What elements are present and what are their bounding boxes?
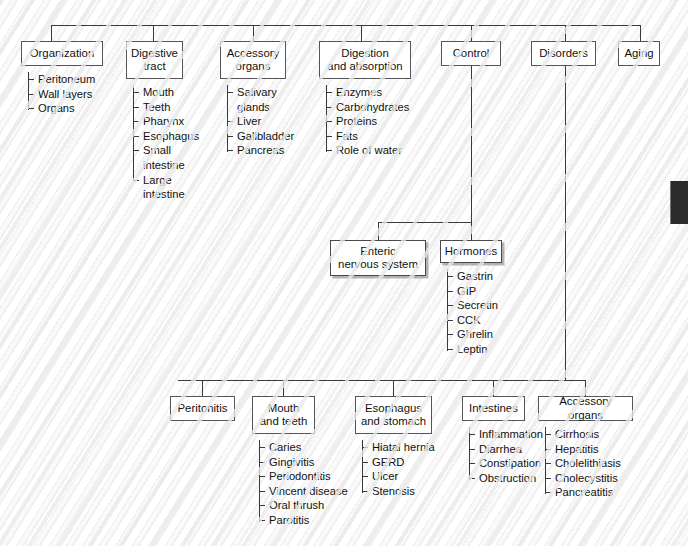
stem-aging: [640, 25, 641, 41]
leaf-item: Caries: [259, 440, 369, 455]
node-enteric-nervous-system-label: Enteric nervous system: [338, 245, 418, 271]
leaf-item: Leptin: [447, 342, 537, 357]
leaf-item: Mouth: [133, 85, 223, 100]
node-digestion-and-absorption[interactable]: Digestion and absorption: [319, 41, 411, 79]
leaf-item: Wall layers: [28, 87, 138, 102]
leaf-item: Secretin: [447, 298, 537, 313]
node-aging-label: Aging: [624, 47, 653, 60]
leaf-item: Salivary glands: [227, 85, 322, 114]
leaf-group-digestive-tract: Mouth Teeth Pharynx Esophagus Small inte…: [133, 85, 223, 202]
node-disorders-accessory-organs-label: Accessory organs: [541, 395, 630, 421]
leaf-item: Hiatal hernia: [362, 440, 457, 455]
diagram-canvas: Organization Digestive tract Accessory o…: [0, 0, 688, 546]
disorders-branch-bus: [178, 380, 585, 381]
leaf-item: Liver: [227, 114, 322, 129]
stem-disorders-accessory-organs: [585, 380, 586, 396]
leaf-group-disorders-accessory-organs: Cirrhosis Hepatitis Cholelithiasis Chole…: [545, 427, 655, 500]
stem-enteric-nervous-system: [378, 222, 379, 240]
disorders-down-line: [565, 66, 566, 380]
stem-digestive-tract: [153, 25, 154, 41]
node-disorders-label: Disorders: [539, 47, 588, 60]
stem-hormones: [471, 222, 472, 240]
node-organization-label: Organization: [30, 47, 95, 60]
stem-organization: [51, 25, 52, 41]
stem-digestion-and-absorption: [361, 25, 362, 41]
node-disorders-accessory-organs[interactable]: Accessory organs: [538, 396, 633, 421]
node-hormones[interactable]: Hormones: [440, 240, 502, 263]
node-digestion-and-absorption-label: Digestion and absorption: [327, 47, 402, 73]
leaf-item: GERD: [362, 455, 457, 470]
node-control-label: Control: [453, 47, 490, 60]
leaf-item: Fats: [326, 129, 436, 144]
leaf-group-digestion-and-absorption: Enzymes Carbohydrates Proteins Fats Role…: [326, 85, 436, 158]
right-edge-panel[interactable]: [670, 181, 688, 224]
node-esophagus-and-stomach-label: Esophagus and stomach: [361, 402, 426, 428]
control-down-line: [471, 66, 472, 222]
leaf-item: Ghrelin: [447, 327, 537, 342]
leaf-item: Small intestine: [133, 143, 223, 172]
node-digestive-tract-label: Digestive tract: [131, 47, 178, 73]
leaf-item: Pharynx: [133, 114, 223, 129]
leaf-item: Peritoneum: [28, 72, 138, 87]
node-peritonitis-label: Peritonitis: [177, 402, 227, 415]
control-branch-bus: [378, 222, 471, 223]
stem-disorders: [565, 25, 566, 41]
leaf-item: Gingivitis: [259, 455, 369, 470]
leaf-item: GIP: [447, 284, 537, 299]
leaf-group-accessory-organs: Salivary glands Liver Gallbladder Pancre…: [227, 85, 322, 158]
stem-peritonitis: [202, 380, 203, 396]
leaf-item: Gastrin: [447, 269, 537, 284]
node-mouth-and-teeth-label: Mouth and teeth: [260, 402, 308, 428]
leaf-item: Cholelithiasis: [545, 456, 655, 471]
leaf-item: Periodontitis: [259, 469, 369, 484]
leaf-item: Proteins: [326, 114, 436, 129]
node-mouth-and-teeth[interactable]: Mouth and teeth: [252, 396, 315, 434]
leaf-group-hormones: Gastrin GIP Secretin CCK Ghrelin Leptin: [447, 269, 537, 357]
node-disorders[interactable]: Disorders: [531, 41, 596, 66]
leaf-item: Hepatitis: [545, 442, 655, 457]
stem-esophagus-and-stomach: [393, 380, 394, 396]
node-accessory-organs[interactable]: Accessory organs: [220, 41, 286, 79]
node-enteric-nervous-system[interactable]: Enteric nervous system: [330, 240, 426, 276]
leaf-group-mouth-and-teeth: Caries Gingivitis Periodontitis Vincent …: [259, 440, 369, 528]
top-bus-line: [51, 25, 640, 26]
node-aging[interactable]: Aging: [618, 41, 660, 66]
node-control[interactable]: Control: [441, 41, 501, 66]
leaf-item: Carbohydrates: [326, 100, 436, 115]
leaf-item: Gallbladder: [227, 129, 322, 144]
leaf-item: Organs: [28, 101, 138, 116]
leaf-item: Enzymes: [326, 85, 436, 100]
leaf-item: Role of water: [326, 143, 436, 158]
leaf-item: Ulcer: [362, 469, 457, 484]
node-organization[interactable]: Organization: [21, 41, 103, 66]
leaf-item: Teeth: [133, 100, 223, 115]
leaf-item: Parotitis: [259, 513, 369, 528]
node-esophagus-and-stomach[interactable]: Esophagus and stomach: [355, 396, 432, 434]
leaf-item: Stenosis: [362, 484, 457, 499]
leaf-item: Large intestine: [133, 173, 223, 202]
leaf-group-esophagus-and-stomach: Hiatal hernia GERD Ulcer Stenosis: [362, 440, 457, 498]
leaf-item: Esophagus: [133, 129, 223, 144]
stem-control: [471, 25, 472, 41]
node-accessory-organs-label: Accessory organs: [227, 47, 280, 73]
stem-intestines: [493, 380, 494, 396]
leaf-group-organization: Peritoneum Wall layers Organs: [28, 72, 138, 116]
leaf-item: Pancreas: [227, 143, 322, 158]
leaf-item: CCK: [447, 313, 537, 328]
node-peritonitis[interactable]: Peritonitis: [170, 396, 235, 421]
leaf-item: Cholecystitis: [545, 471, 655, 486]
node-intestines[interactable]: Intestines: [462, 396, 525, 421]
leaf-item: Cirrhosis: [545, 427, 655, 442]
leaf-item: Oral thrush: [259, 498, 369, 513]
node-hormones-label: Hormones: [445, 245, 498, 258]
leaf-item: Vincent disease: [259, 484, 369, 499]
stem-mouth-and-teeth: [283, 380, 284, 396]
node-intestines-label: Intestines: [469, 402, 518, 415]
stem-accessory-organs: [253, 25, 254, 41]
leaf-item: Pancreatitis: [545, 485, 655, 500]
